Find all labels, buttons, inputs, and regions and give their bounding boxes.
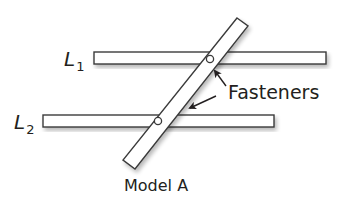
line-label-l1-main: L <box>64 47 75 71</box>
arrow-to-fastener-top <box>215 71 226 86</box>
line-label-l2-sub: 2 <box>26 122 34 137</box>
fastener-top <box>206 55 213 62</box>
line-label-l2-main: L <box>14 110 25 134</box>
arrow-to-fastener-bottom <box>190 96 216 108</box>
fasteners-label: Fasteners <box>228 81 319 103</box>
line-label-l2: L2 <box>14 110 34 137</box>
line-label-l1: L1 <box>64 47 84 74</box>
diagram-caption: Model A <box>124 176 188 195</box>
line-label-l1-sub: 1 <box>76 59 84 74</box>
fastener-bottom <box>154 117 161 124</box>
model-a-diagram: Fasteners L1 L2 Model A <box>0 0 346 199</box>
